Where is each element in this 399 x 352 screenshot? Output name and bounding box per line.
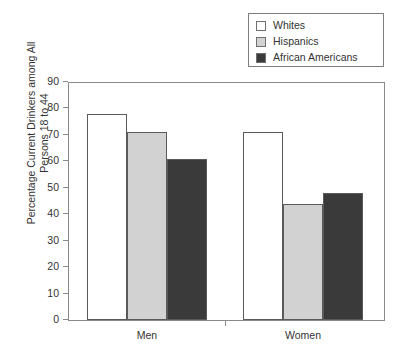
bar-women-hispanics bbox=[283, 204, 323, 320]
legend-swatch-african-americans bbox=[256, 53, 266, 63]
bar-men-whites bbox=[87, 114, 127, 320]
bar-women-whites bbox=[243, 132, 283, 320]
y-axis-tick-label: 0 bbox=[53, 313, 59, 325]
legend-label-whites: Whites bbox=[273, 20, 305, 31]
y-axis-tick-label: 30 bbox=[47, 234, 59, 246]
y-axis: 0102030405060708090 bbox=[0, 0, 68, 352]
x-axis-label-men: Men bbox=[107, 329, 187, 342]
legend-item-hispanics: Hispanics bbox=[256, 34, 383, 49]
y-axis-tick-label: 80 bbox=[47, 101, 59, 113]
y-axis-tick-label: 90 bbox=[47, 75, 59, 87]
legend-item-whites: Whites bbox=[256, 18, 383, 33]
legend-item-african-americans: African Americans bbox=[256, 50, 383, 65]
y-axis-tick-label: 70 bbox=[47, 128, 59, 140]
chart-legend: Whites Hispanics African Americans bbox=[248, 13, 384, 67]
bar-men-african-americans bbox=[167, 159, 207, 320]
legend-label-african-americans: African Americans bbox=[273, 52, 358, 63]
x-axis-tick-mark bbox=[225, 321, 226, 326]
bar-women-african-americans bbox=[323, 193, 363, 320]
x-axis-label-women: Women bbox=[263, 329, 343, 342]
legend-swatch-whites bbox=[256, 21, 266, 31]
legend-swatch-hispanics bbox=[256, 37, 266, 47]
y-axis-tick-label: 50 bbox=[47, 181, 59, 193]
legend-label-hispanics: Hispanics bbox=[273, 36, 319, 47]
y-axis-tick-label: 40 bbox=[47, 207, 59, 219]
y-axis-tick-label: 60 bbox=[47, 154, 59, 166]
bar-men-hispanics bbox=[127, 132, 167, 320]
bars-layer bbox=[68, 82, 385, 320]
y-axis-tick-label: 10 bbox=[47, 287, 59, 299]
y-axis-tick-label: 20 bbox=[47, 260, 59, 272]
